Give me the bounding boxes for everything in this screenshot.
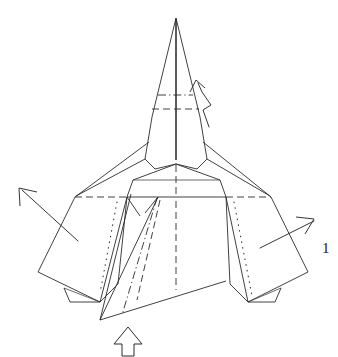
right-wing-outline	[226, 197, 308, 302]
left-arrow-shaft	[22, 190, 78, 241]
fuselage-left-notch	[145, 147, 155, 169]
body-chevron-right	[176, 164, 220, 180]
left-wing-leading-edge-inner	[76, 159, 145, 196]
left-wing-unfold-arrow	[19, 188, 78, 241]
left-arrow-head	[19, 188, 37, 206]
body-panel-left-edge	[127, 180, 133, 197]
body-chevron-left	[133, 164, 176, 180]
right-wing-panel	[226, 197, 308, 302]
left-wing-outline	[38, 197, 127, 302]
right-arrow-shaft	[260, 221, 314, 248]
keel-upper-notch-left	[127, 197, 140, 216]
fuselage-group	[75, 142, 271, 197]
origami-diagram-canvas: 1	[0, 0, 338, 357]
crimp-arrow-shaft	[198, 83, 211, 127]
left-wing-panel	[38, 197, 127, 302]
right-wing-unfold-arrow	[260, 217, 314, 248]
keel-right-edge	[100, 197, 158, 320]
keel-valley-crease	[137, 200, 160, 300]
keel-bottom-diagonal	[100, 281, 226, 320]
origami-figure: 1	[0, 0, 338, 357]
step-number-label: 1	[322, 240, 330, 256]
keel-group	[100, 194, 226, 320]
nose-left-edge	[147, 18, 176, 147]
nose-right-edge	[176, 18, 205, 147]
push-arrow-outline	[114, 327, 142, 356]
body-panel-right-edge	[220, 180, 226, 197]
fuselage-right-notch	[197, 147, 207, 169]
left-wing-leading-edge	[75, 142, 149, 197]
right-wing-leading-edge-inner	[207, 159, 270, 196]
right-wing-leading-edge	[203, 142, 271, 197]
nose-spike-group	[147, 18, 205, 160]
push-here-hollow-arrow	[114, 327, 142, 356]
